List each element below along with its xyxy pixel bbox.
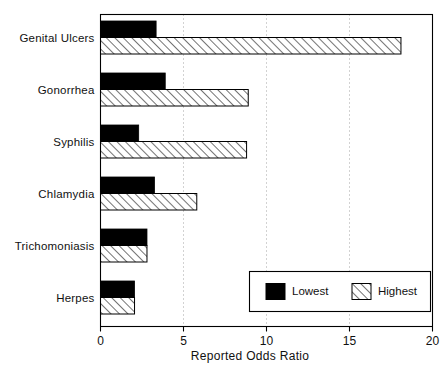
- bar-herpes-highest: [101, 298, 135, 315]
- bar-chlamydia-lowest: [101, 177, 155, 194]
- bars-layer: [101, 21, 401, 314]
- x-axis-title: Reported Odds Ratio: [140, 349, 360, 363]
- category-label-gonorrhea: Gonorrhea: [0, 84, 95, 96]
- category-label-herpes: Herpes: [0, 292, 95, 304]
- bar-chlamydia-highest: [101, 194, 197, 211]
- bar-herpes-lowest: [101, 281, 135, 298]
- bar-trichomoniasis-highest: [101, 246, 147, 263]
- bar-syphilis-lowest: [101, 125, 139, 142]
- legend-swatch-highest: [352, 284, 371, 300]
- category-label-genital-ulcers: Genital Ulcers: [0, 32, 95, 44]
- bar-genital-ulcers-highest: [101, 38, 401, 55]
- odds-ratio-bar-chart: Genital UlcersGonorrheaSyphilisChlamydia…: [0, 0, 447, 380]
- legend-swatch-lowest: [266, 284, 285, 300]
- bar-trichomoniasis-lowest: [101, 229, 147, 246]
- x-tick-label-15: 15: [330, 335, 370, 348]
- x-tick-label-5: 5: [164, 335, 204, 348]
- x-tick-label-0: 0: [81, 335, 121, 348]
- bar-syphilis-highest: [101, 142, 247, 159]
- legend-label-lowest: Lowest: [292, 285, 328, 298]
- legend-label-highest: Highest: [378, 285, 417, 298]
- x-tick-label-10: 10: [247, 335, 287, 348]
- bar-gonorrhea-highest: [101, 90, 249, 107]
- bar-gonorrhea-lowest: [101, 73, 166, 90]
- x-tick-label-20: 20: [413, 335, 447, 348]
- category-label-trichomoniasis: Trichomoniasis: [0, 240, 95, 252]
- axis-ticks: [101, 327, 433, 332]
- bar-genital-ulcers-lowest: [101, 21, 157, 38]
- category-label-chlamydia: Chlamydia: [0, 188, 95, 200]
- category-label-syphilis: Syphilis: [0, 136, 95, 148]
